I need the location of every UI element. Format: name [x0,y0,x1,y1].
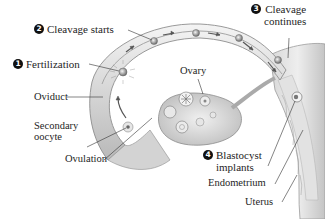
fertilization-text: Fertilization [26,58,80,70]
four-cell-embryo [193,30,200,37]
morula [236,35,243,42]
cleavage-continues-line1: Cleavage [265,3,306,15]
step-2-badge: 2 [34,24,44,34]
blastocyst-implants-line2: implants [216,161,262,173]
step-4-label: 4 Blastocyst implants [203,149,262,173]
blastocyst-implants-line1: Blastocyst [216,149,262,161]
ovulation-label: Ovulation [65,153,107,164]
step-1-label: 1 Fertilization [13,58,80,70]
secondary-oocyte-label-line1: Secondary [34,120,78,131]
secondary-oocyte-label-line2: oocyte [34,131,62,142]
ovary-label: Ovary [180,65,206,76]
oviduct-label: Oviduct [34,91,68,102]
ruptured-follicle [164,106,176,118]
zygote [119,68,127,76]
early-blastocyst [275,57,282,64]
two-cell-embryo [151,38,158,45]
step-3-badge: 3 [251,4,261,14]
step-3-label: 3 Cleavage continues [251,3,306,27]
step-1-badge: 1 [13,59,23,69]
cleavage-starts-text: Cleavage starts [47,23,114,35]
cleavage-continues-line2: continues [264,15,306,27]
ovary [159,78,276,145]
reproduction-diagram: 2 Cleavage starts 1 Fertilization 3 Clea… [0,0,325,219]
step-4-badge: 4 [203,150,213,160]
step-2-label: 2 Cleavage starts [34,23,114,35]
endometrium-label: Endometrium [208,177,266,188]
uterus-label: Uterus [245,196,273,207]
